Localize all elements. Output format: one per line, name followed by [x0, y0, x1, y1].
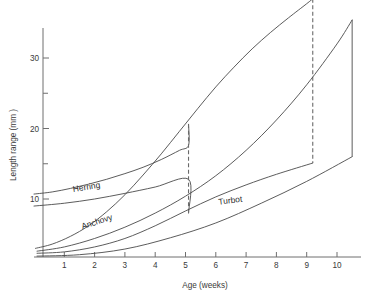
x-tick-label-1: 1: [62, 261, 67, 270]
series-herring: [34, 124, 191, 213]
x-tick-label-3: 3: [123, 261, 128, 270]
series-anchovy: [36, 0, 313, 253]
y-tick-label-20: 20: [30, 125, 40, 134]
x-tick-label-7: 7: [244, 261, 249, 270]
series-curves-group: [34, 0, 352, 256]
series-herring-lower-bound: [34, 178, 191, 213]
y-tick-label-10: 10: [30, 195, 40, 204]
y-axis-ticks: [43, 58, 49, 199]
axes-group: 102030 12345678910: [30, 28, 361, 270]
y-tick-label-30: 30: [30, 54, 40, 63]
series-inline-labels-group: HerringAnchovyTurbot: [72, 180, 243, 232]
x-tick-label-5: 5: [183, 261, 188, 270]
x-tick-label-9: 9: [304, 261, 309, 270]
length-range-vs-age-chart: 102030 12345678910 HerringAnchovyTurbot …: [0, 0, 369, 298]
x-tick-label-10: 10: [332, 261, 342, 270]
x-tick-label-8: 8: [274, 261, 279, 270]
series-turbot-upper-bound: [37, 20, 352, 251]
series-anchovy-upper-bound: [36, 0, 313, 248]
x-axis-tick-labels: 12345678910: [62, 261, 342, 270]
series-anchovy-lower-bound: [37, 163, 313, 253]
curve-label-herring: Herring: [72, 180, 101, 194]
chart-container: 102030 12345678910 HerringAnchovyTurbot …: [0, 0, 369, 298]
x-tick-label-6: 6: [214, 261, 219, 270]
x-tick-label-2: 2: [92, 261, 97, 270]
y-axis-title: Length range (mm ): [9, 109, 18, 181]
y-axis-tick-labels: 102030: [30, 54, 40, 204]
x-tick-label-4: 4: [153, 261, 158, 270]
x-axis-ticks: [64, 252, 337, 257]
curve-label-turbot: Turbot: [218, 194, 244, 207]
curve-label-anchovy: Anchovy: [80, 212, 114, 232]
x-axis-title: Age (weeks): [182, 281, 228, 290]
